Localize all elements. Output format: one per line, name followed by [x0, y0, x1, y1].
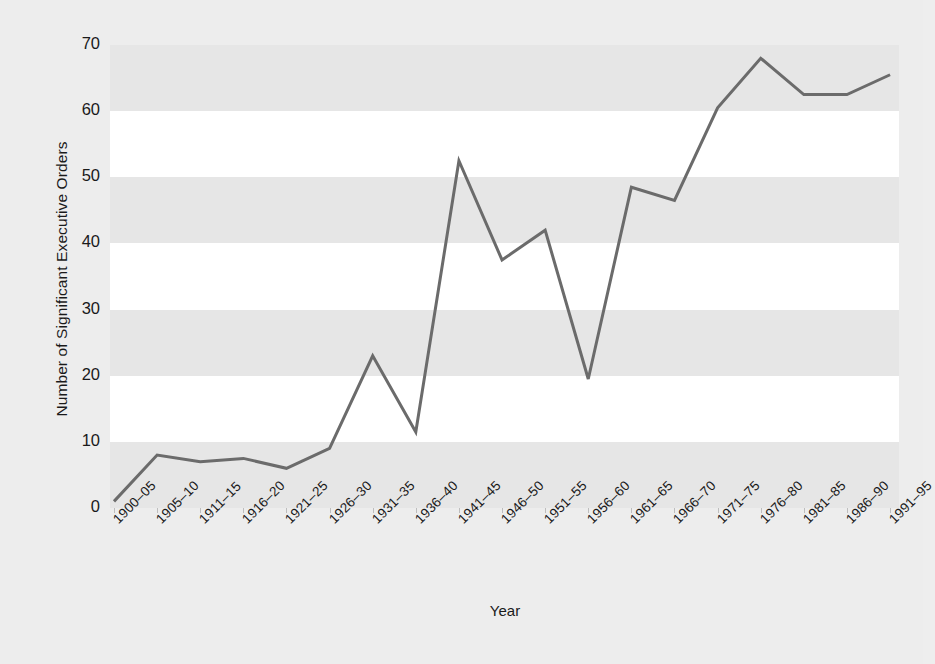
- x-axis-title: Year: [110, 602, 900, 619]
- y-tick-label: 0: [40, 497, 100, 516]
- y-tick-label: 20: [40, 365, 100, 384]
- y-tick-label: 10: [40, 431, 100, 450]
- y-tick-label: 40: [40, 232, 100, 251]
- plot-area: [110, 45, 899, 508]
- line-series-svg: [110, 45, 899, 508]
- x-axis-tick-labels: 1900–051905–101911–151916–201921–251926–…: [110, 508, 899, 603]
- y-tick-label: 70: [40, 34, 100, 53]
- y-axis-tick-labels: 010203040506070: [28, 45, 100, 508]
- y-tick-label: 30: [40, 299, 100, 318]
- y-tick-label: 60: [40, 100, 100, 119]
- data-line-significant-executive-orders: [114, 58, 890, 501]
- y-tick-label: 50: [40, 166, 100, 185]
